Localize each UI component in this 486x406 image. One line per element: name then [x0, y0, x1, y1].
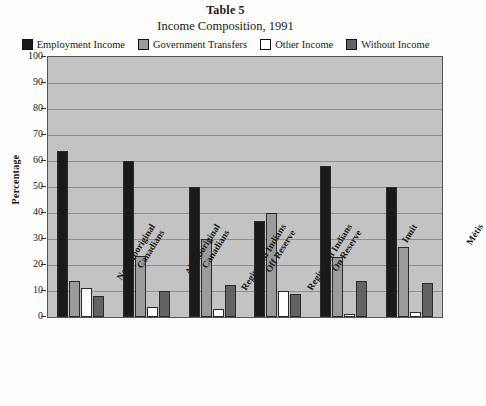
bar-group: [57, 57, 104, 317]
x-axis-labels: Non-AboriginalCanadiansAll AboriginalCan…: [48, 318, 442, 406]
bar-group: [386, 57, 433, 317]
legend-swatch-without: [346, 39, 357, 50]
y-tick-label: 0: [13, 311, 43, 321]
y-tick-label: 100: [13, 51, 43, 61]
y-tick-label: 40: [13, 207, 43, 217]
y-tick-label: 30: [13, 233, 43, 243]
y-tick-mark: [41, 238, 46, 239]
y-tick-label: 90: [13, 77, 43, 87]
bar: [69, 281, 80, 317]
y-tick-label: 50: [13, 181, 43, 191]
y-tick-mark: [41, 160, 46, 161]
y-tick-label: 70: [13, 129, 43, 139]
y-tick-mark: [41, 264, 46, 265]
y-tick-label: 80: [13, 103, 43, 113]
legend-item-government: Government Transfers: [138, 39, 247, 50]
legend-item-employment: Employment Income: [22, 39, 125, 50]
legend-swatch-other: [260, 39, 271, 50]
legend-label-other: Other Income: [275, 39, 333, 50]
legend-swatch-government: [138, 39, 149, 50]
legend-label-without: Without Income: [361, 39, 429, 50]
chart-legend: Employment IncomeGovernment TransfersOth…: [0, 39, 451, 50]
y-tick-mark: [41, 134, 46, 135]
table-label: Table 5: [0, 3, 451, 17]
y-tick-mark: [41, 316, 46, 317]
chart-title: Income Composition, 1991: [0, 18, 451, 34]
bar: [57, 151, 68, 317]
legend-label-government: Government Transfers: [153, 39, 247, 50]
y-tick-mark: [41, 290, 46, 291]
y-tick-mark: [41, 212, 46, 213]
y-tick-label: 60: [13, 155, 43, 165]
legend-swatch-employment: [22, 39, 33, 50]
legend-item-other: Other Income: [260, 39, 333, 50]
y-tick-mark: [41, 108, 46, 109]
y-tick-mark: [41, 82, 46, 83]
legend-item-without: Without Income: [346, 39, 429, 50]
legend-label-employment: Employment Income: [37, 39, 125, 50]
y-tick-mark: [41, 56, 46, 57]
title-block: Table 5 Income Composition, 1991: [0, 0, 451, 34]
y-tick-label: 10: [13, 285, 43, 295]
y-tick-label: 20: [13, 259, 43, 269]
y-tick-mark: [41, 186, 46, 187]
